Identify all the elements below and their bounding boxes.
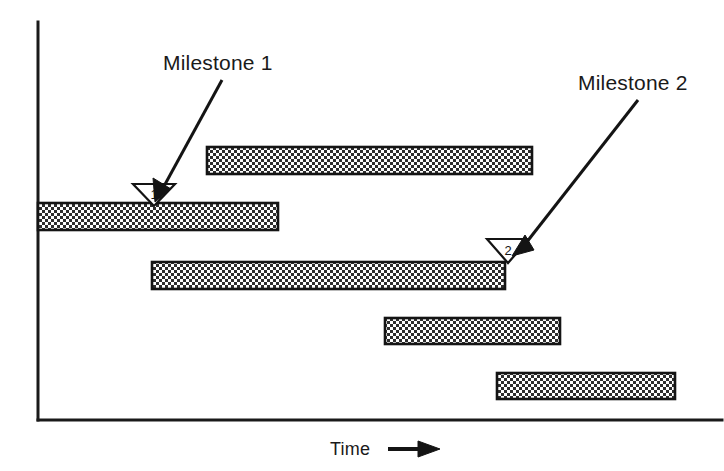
gantt-chart-figure: 1 2 Milestone 1 Milestone 2 Time (0, 0, 724, 471)
task-bar (497, 373, 675, 399)
x-axis-caption: Time (330, 439, 370, 459)
task-bar (38, 203, 278, 230)
time-axis-caption-group: Time (330, 439, 440, 459)
leader-line (526, 100, 638, 243)
milestone-2-label: Milestone 2 (578, 71, 688, 94)
task-bar (207, 147, 532, 174)
task-bar (385, 318, 560, 344)
task-bar (152, 262, 505, 289)
gantt-chart-canvas: 1 2 Milestone 1 Milestone 2 Time (0, 0, 724, 471)
right-arrow-icon (388, 441, 440, 457)
milestone-1-label: Milestone 1 (163, 51, 273, 74)
milestone-2-number: 2 (504, 243, 511, 258)
milestone-2-leader-arrow (512, 100, 638, 256)
